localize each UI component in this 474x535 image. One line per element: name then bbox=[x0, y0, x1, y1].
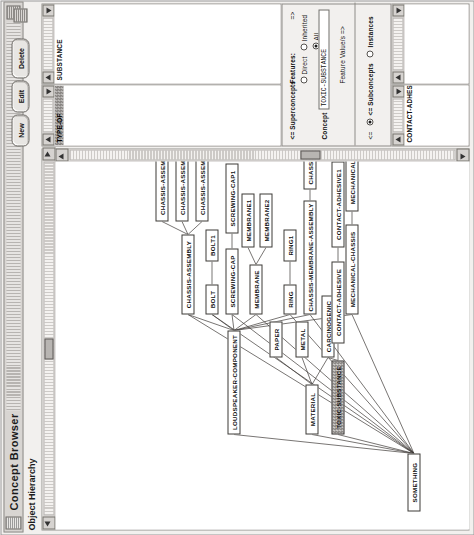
subconcepts-panel-scrollbar[interactable] bbox=[392, 85, 404, 145]
relations-list[interactable]: TYPE-OF bbox=[54, 85, 280, 145]
graph-node-contact-adhesive[interactable]: CONTACT-ADHESIVE bbox=[331, 261, 344, 343]
list-item[interactable]: TYPE-OF bbox=[54, 85, 63, 145]
scroll-up-arrow-icon[interactable] bbox=[55, 149, 68, 162]
graph-node-membrane[interactable]: MEMBRANE bbox=[249, 264, 262, 314]
subconcepts-list[interactable]: CONTACT-ADHESIVE bbox=[404, 85, 468, 145]
graph-node-label: MECHANICAL-CHASSIS1 bbox=[348, 161, 355, 204]
instances-scroll-down-icon[interactable] bbox=[392, 4, 404, 16]
relations-scroll-up-icon[interactable] bbox=[42, 133, 54, 145]
graph-node-membrane2[interactable]: MEMBRANE2 bbox=[259, 193, 272, 247]
graph-node-chassis-assembly3[interactable]: CHASSIS-ASSEMBLY3 bbox=[155, 161, 168, 221]
graph-node-metal[interactable]: METAL bbox=[295, 321, 308, 357]
radio-subconcepts[interactable] bbox=[366, 118, 373, 125]
graph-node-chassis-membrane-assembly1[interactable]: CHASSIS-MEMBRANE-ASSEMBLY1 bbox=[303, 161, 316, 189]
form-divider bbox=[354, 2, 355, 145]
graph-node-label: RING1 bbox=[286, 235, 293, 255]
graph-node-screwing-cap[interactable]: SCREWING-CAP bbox=[225, 248, 238, 314]
vscroll-thumb[interactable] bbox=[300, 151, 319, 160]
graph-edge bbox=[248, 247, 256, 264]
superconcepts-panel-scrollbar[interactable] bbox=[42, 4, 54, 83]
graph-node-screwing-cap1[interactable]: SCREWING-CAP1 bbox=[225, 163, 238, 233]
graph-node-chassis-assembly1[interactable]: CHASSIS-ASSEMBLY1 bbox=[195, 161, 208, 221]
concept-input[interactable]: TOXIC-SUBSTANCE bbox=[318, 9, 329, 109]
radio-instances[interactable] bbox=[366, 50, 373, 57]
graph-node-label: CHASSIS-ASSEMBLY1 bbox=[198, 161, 205, 215]
graph-node-paper[interactable]: PAPER bbox=[269, 321, 282, 357]
concept-browser-window: Concept Browser Object Hierarchy SOMETHI… bbox=[0, 0, 474, 535]
graph-edge bbox=[188, 221, 202, 234]
graph-node-ring[interactable]: RING bbox=[283, 284, 296, 314]
hscroll-trough[interactable] bbox=[43, 161, 54, 515]
graph-node-label: MEMBRANE2 bbox=[262, 199, 269, 241]
graph-node-chassis-assembly[interactable]: CHASSIS-ASSEMBLY bbox=[181, 234, 194, 314]
instances-list[interactable] bbox=[404, 4, 468, 83]
graph-node-label: TOXIC-SUBSTANCE bbox=[334, 366, 341, 429]
superconcepts-scroll-trough[interactable] bbox=[42, 17, 53, 70]
list-item[interactable]: SUBSTANCE bbox=[54, 4, 63, 83]
graph-node-bolt1[interactable]: BOLT1 bbox=[205, 229, 218, 261]
graph-horizontal-scrollbar[interactable] bbox=[42, 147, 55, 529]
graph-node-chassis-membrane-assembly[interactable]: CHASSIS-MEMBRANE-ASSEMBLY bbox=[303, 200, 316, 314]
hscroll-thumb[interactable] bbox=[44, 338, 53, 359]
vscroll-trough[interactable] bbox=[69, 150, 455, 161]
graph-node-bolt[interactable]: BOLT bbox=[205, 284, 218, 314]
graph-node-label: BOLT bbox=[208, 290, 215, 307]
graph-node-loudspeaker-component[interactable]: LOUDSPEAKER-COMPONENT bbox=[227, 330, 240, 434]
relations-scroll-down-icon[interactable] bbox=[42, 85, 54, 97]
graph-edge bbox=[256, 247, 266, 264]
graph-node-label: CHASSIS-MEMBRANE-ASSEMBLY bbox=[306, 203, 313, 311]
window-grip-icon[interactable] bbox=[5, 516, 21, 529]
hierarchy-graph-canvas[interactable]: SOMETHINGMATERIALPAPERMETALCARCINOGENICT… bbox=[55, 161, 469, 529]
scroll-down-arrow-icon[interactable] bbox=[456, 149, 469, 162]
radio-inherited[interactable] bbox=[300, 43, 307, 50]
graph-node-chassis-assembly2[interactable]: CHASSIS-ASSEMBLY2 bbox=[175, 161, 188, 221]
radio-direct-label: Direct bbox=[300, 56, 307, 74]
graph-node-label: MEMBRANE bbox=[252, 270, 259, 308]
feature-values-label: Feature Value/s => bbox=[338, 26, 345, 83]
list-item[interactable]: CONTACT-ADHESIVE bbox=[404, 85, 413, 145]
edit-button[interactable]: Edit bbox=[11, 80, 29, 112]
superconcepts-list[interactable]: SUBSTANCE bbox=[54, 4, 280, 83]
delete-button[interactable]: Delete bbox=[11, 38, 29, 78]
graph-vertical-scrollbar[interactable] bbox=[55, 149, 469, 162]
instances-panel-scrollbar[interactable] bbox=[392, 4, 404, 83]
subconcepts-scroll-down-icon[interactable] bbox=[392, 85, 404, 97]
relations-scroll-trough[interactable] bbox=[42, 98, 53, 132]
subconcepts-scroll-up-icon[interactable] bbox=[392, 133, 404, 145]
concept-field-label: Concept bbox=[320, 112, 327, 139]
window-resize-icon[interactable] bbox=[13, 8, 27, 22]
graph-node-ring1[interactable]: RING1 bbox=[283, 229, 296, 261]
superconcepts-scroll-down-icon[interactable] bbox=[42, 4, 54, 16]
inspector-column: TYPE-OF SUBSTANCE <= Superconcepts Featu… bbox=[41, 3, 469, 146]
graph-node-label: CHASSIS-ASSEMBLY2 bbox=[178, 161, 185, 215]
graph-node-toxic-substance[interactable]: TOXIC-SUBSTANCE bbox=[331, 360, 344, 434]
graph-node-mechanical-chassis1[interactable]: MECHANICAL-CHASSIS1 bbox=[345, 161, 358, 211]
superconcepts-scroll-up-icon[interactable] bbox=[42, 71, 54, 83]
superconcepts-caption: <= Superconcepts bbox=[288, 80, 295, 139]
graph-node-label: CONTACT-ADHESIVE bbox=[334, 268, 341, 335]
scroll-right-arrow-icon[interactable] bbox=[42, 147, 55, 160]
relations-panel-scrollbar[interactable] bbox=[42, 85, 54, 145]
scroll-left-arrow-icon[interactable] bbox=[42, 516, 55, 529]
graph-node-label: SOMETHING bbox=[410, 462, 417, 502]
graph-node-label: CHASSIS-MEMBRANE-ASSEMBLY1 bbox=[306, 161, 313, 184]
instances-scroll-up-icon[interactable] bbox=[392, 71, 404, 83]
instances-scroll-trough[interactable] bbox=[392, 17, 403, 70]
new-button[interactable]: New bbox=[11, 114, 29, 146]
features-arrow-label: => bbox=[288, 11, 295, 19]
instances-panel bbox=[391, 3, 469, 84]
graph-edge bbox=[232, 314, 234, 330]
radio-direct[interactable] bbox=[300, 76, 307, 83]
graph-node-label: LOUDSPEAKER-COMPONENT bbox=[230, 335, 237, 430]
graph-node-mechanical-chassis[interactable]: MECHANICAL-CHASSIS bbox=[345, 224, 358, 314]
window-title: Concept Browser bbox=[7, 413, 19, 510]
action-button-strip: New Edit Delete bbox=[3, 3, 39, 146]
graph-node-material[interactable]: MATERIAL bbox=[305, 384, 318, 434]
subconcepts-scroll-trough[interactable] bbox=[392, 98, 403, 132]
graph-node-something[interactable]: SOMETHING bbox=[407, 453, 420, 511]
subconcepts-prefix-label: <= bbox=[366, 131, 373, 139]
graph-node-membrane1[interactable]: MEMBRANE1 bbox=[241, 193, 254, 247]
graph-edge bbox=[338, 434, 414, 453]
graph-node-contact-adhesive1[interactable]: CONTACT-ADHESIVE1 bbox=[331, 161, 344, 247]
graph-node-label: MECHANICAL-CHASSIS bbox=[348, 231, 355, 307]
